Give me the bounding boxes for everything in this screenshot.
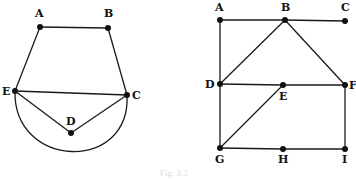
left-vertex-label-a: A — [34, 7, 44, 20]
right-vertex-label-e: E — [279, 90, 287, 103]
right-vertex-label-g: G — [215, 153, 224, 166]
right-vertex-h — [280, 146, 286, 152]
left-edge-a-b — [40, 27, 108, 28]
left-vertex-label-b: B — [104, 7, 113, 20]
right-edge-g-h — [220, 148, 283, 149]
left-edge-b-c — [108, 28, 127, 95]
right-vertex-f — [342, 82, 348, 88]
right-vertex-label-h: H — [278, 153, 288, 166]
left-edge-e-d — [15, 91, 71, 133]
right-vertex-label-i: I — [342, 153, 347, 166]
left-vertex-e — [12, 88, 18, 94]
right-edge-b-f — [285, 20, 345, 85]
right-vertex-label-c: C — [341, 1, 350, 14]
right-edge-b-c — [285, 20, 345, 21]
left-edge-d-c — [71, 95, 127, 133]
right-edge-e-g — [220, 85, 283, 148]
left-vertex-label-d: D — [66, 115, 76, 128]
left-vertex-label-e: E — [2, 85, 10, 98]
right-vertex-e — [280, 82, 286, 88]
left-edge-a-e — [15, 27, 40, 91]
right-vertex-g — [217, 145, 223, 151]
left-vertex-label-c: C — [132, 89, 141, 102]
right-vertex-b — [282, 17, 288, 23]
right-vertex-a — [217, 17, 223, 23]
right-vertex-label-b: B — [281, 1, 290, 14]
right-vertex-i — [342, 146, 348, 152]
figure-canvas: ABCDE ABCDEFGHI Fig. 3.3 — [0, 0, 356, 180]
right-vertex-d — [217, 81, 223, 87]
figure-caption: Fig. 3.3 — [160, 168, 188, 178]
right-vertex-label-f: F — [349, 79, 356, 92]
left-graph: ABCDE — [2, 7, 141, 152]
right-vertex-label-a: A — [214, 1, 224, 14]
right-vertex-label-d: D — [205, 78, 215, 91]
right-edge-d-e — [220, 84, 283, 85]
left-vertex-b — [105, 25, 111, 31]
right-vertex-c — [342, 18, 348, 24]
left-vertex-a — [37, 24, 43, 30]
right-edge-b-d — [220, 20, 285, 84]
right-graph: ABCDEFGHI — [205, 1, 356, 166]
left-vertex-d — [68, 130, 74, 136]
left-vertex-c — [124, 92, 130, 98]
left-edge-e-c — [15, 91, 127, 95]
